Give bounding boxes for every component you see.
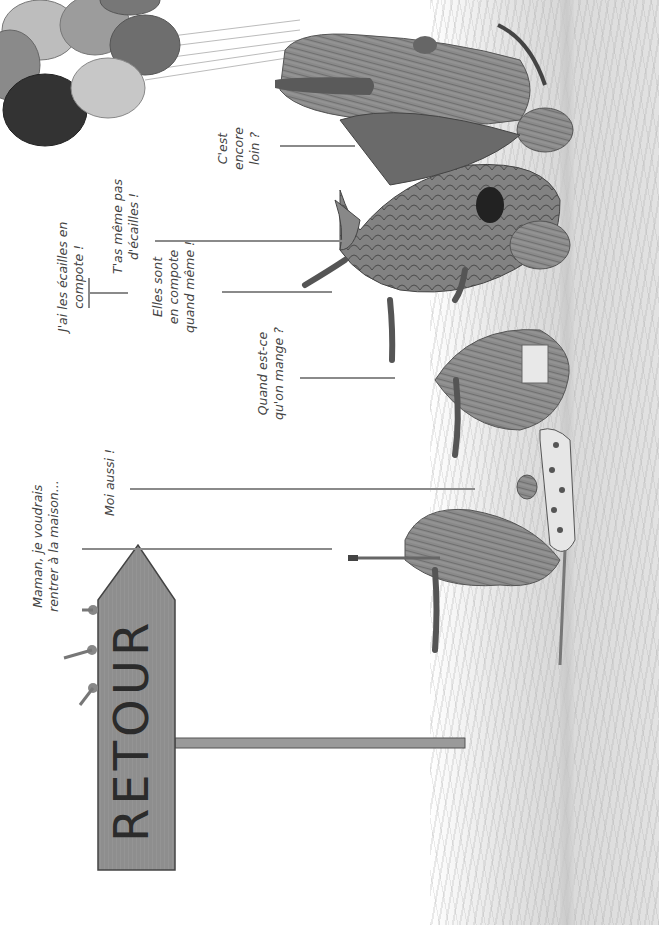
pointer-line-encore-loin xyxy=(280,145,355,147)
dragon xyxy=(305,113,570,360)
people-on-sign xyxy=(64,605,98,705)
pointer-line-moi-aussi xyxy=(130,488,475,490)
pointer-line-maman xyxy=(82,548,332,550)
dialogue-maman: Maman, je voudrais rentrer à la maison..… xyxy=(30,480,62,612)
dialogue-ecailles: J'ai les écailles en compote ! xyxy=(55,222,87,332)
dialogue-encore-loin: C'est encore loin ? xyxy=(215,127,263,170)
pointer-line-ecailles xyxy=(88,292,128,294)
dialogue-elles-sont: Elles sont en compote quand même ! xyxy=(150,241,198,333)
dialogue-moi-aussi: Moi aussi ! xyxy=(102,449,118,516)
illustration-layer xyxy=(0,0,659,925)
pointer-line-quand-mange xyxy=(300,377,395,379)
pointer-line-elles-sont xyxy=(222,291,332,293)
dialogue-meme-pas: T'as même pas d'écailles ! xyxy=(110,179,142,274)
toothbrush-creature xyxy=(348,509,560,650)
dialogue-quand-mange: Quand est-ce qu'on mange ? xyxy=(255,327,287,420)
balloon-bunch xyxy=(0,0,300,146)
storybook-page: RETOUR Maman, je voudrais rentrer à la m… xyxy=(0,0,659,925)
signpost-label: RETOUR xyxy=(103,619,159,842)
